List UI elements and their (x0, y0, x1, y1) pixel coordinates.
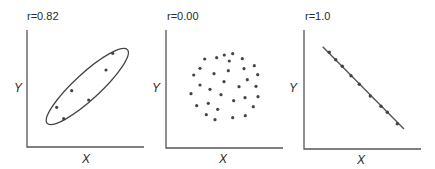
data-point (208, 88, 211, 91)
panel-title: r=0.82 (27, 10, 59, 22)
data-point (231, 52, 234, 55)
data-point (104, 68, 107, 71)
data-point (252, 105, 255, 108)
data-point (203, 57, 206, 60)
data-point (256, 73, 259, 76)
data-point (349, 74, 352, 77)
data-point (386, 111, 389, 114)
axes (166, 30, 283, 148)
y-axis-label: Y (289, 81, 298, 95)
axes (304, 30, 421, 149)
data-point (241, 57, 244, 60)
panel-r-082: r=0.82 Y X (14, 10, 144, 166)
data-point (237, 85, 240, 88)
panel-title: r=1.0 (305, 10, 330, 22)
data-point (213, 118, 216, 121)
data-point (212, 72, 215, 75)
data-point (227, 69, 230, 72)
data-point (253, 64, 256, 67)
data-point (341, 65, 344, 68)
data-point (228, 59, 231, 62)
data-point (216, 108, 219, 111)
data-point (223, 53, 226, 56)
data-point (231, 116, 234, 119)
y-axis-label: Y (152, 81, 161, 95)
data-point (189, 92, 192, 95)
data-point (256, 95, 259, 98)
data-point (215, 56, 218, 59)
data-point (195, 104, 198, 107)
data-points (189, 52, 259, 121)
data-point (198, 83, 201, 86)
data-point (396, 122, 399, 125)
data-point (205, 113, 208, 116)
enclosing-ellipse (38, 40, 136, 133)
panel-r-000: r=0.00 Y X (152, 10, 283, 166)
data-points (55, 52, 114, 121)
axes (27, 30, 144, 147)
data-point (243, 96, 246, 99)
data-point (242, 67, 245, 70)
x-axis-label: X (218, 152, 228, 166)
data-point (254, 85, 257, 88)
data-point (232, 99, 235, 102)
data-point (358, 83, 361, 86)
panel-title: r=0.00 (167, 10, 199, 22)
data-point (87, 98, 90, 101)
data-point (192, 73, 195, 76)
data-point (111, 52, 114, 55)
panel-r-10: r=1.0 Y X (289, 10, 421, 167)
y-axis-label: Y (14, 81, 23, 95)
data-point (222, 80, 225, 83)
data-point (70, 89, 73, 92)
data-point (207, 102, 210, 105)
correlation-figure: r=0.82 Y X r=0.00 Y X r=1.0 Y X (0, 0, 435, 169)
data-point (379, 105, 382, 108)
data-point (334, 58, 337, 61)
data-point (55, 106, 58, 109)
data-point (246, 78, 249, 81)
x-axis-label: X (356, 153, 366, 167)
data-point (219, 93, 222, 96)
data-point (198, 67, 201, 70)
data-point (369, 94, 372, 97)
data-point (244, 114, 247, 117)
data-point (328, 51, 331, 54)
data-point (62, 117, 65, 120)
x-axis-label: X (81, 152, 91, 166)
